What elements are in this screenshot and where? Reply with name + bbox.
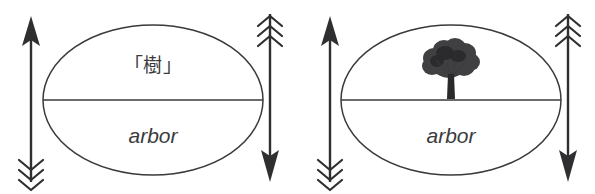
panel-left-canvas: 「樹」 arbor <box>0 0 298 194</box>
sign-diagram-image: arbor <box>298 0 595 194</box>
up-arrow <box>318 16 342 190</box>
figure-root: 「樹」 arbor <box>0 0 595 194</box>
panel-right-canvas: arbor <box>298 0 595 194</box>
signifier-label: arbor <box>128 124 178 147</box>
sign-diagram-word: 「樹」 arbor <box>0 0 298 194</box>
signified-label: 「樹」 <box>124 54 183 76</box>
up-arrow <box>19 16 43 190</box>
signifier-label: arbor <box>426 124 476 147</box>
tree-trunk <box>447 74 455 99</box>
